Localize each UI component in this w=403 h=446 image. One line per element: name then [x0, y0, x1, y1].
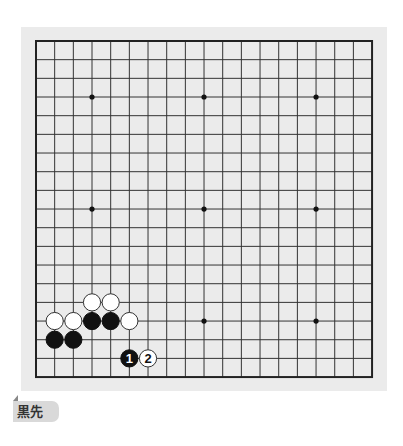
star-point-icon — [201, 206, 206, 211]
move-number-label: 1 — [126, 351, 133, 366]
star-point-icon — [313, 318, 318, 323]
black-stone[interactable] — [46, 331, 63, 348]
white-stone[interactable] — [121, 312, 138, 329]
star-point-icon — [201, 94, 206, 99]
star-point-icon — [89, 94, 94, 99]
white-stone[interactable] — [102, 294, 119, 311]
move-number-label: 2 — [144, 351, 151, 366]
black-stone[interactable] — [65, 331, 82, 348]
star-point-icon — [313, 206, 318, 211]
go-board[interactable]: 12 — [0, 0, 403, 446]
star-point-icon — [313, 94, 318, 99]
white-stone[interactable] — [83, 294, 100, 311]
black-stone[interactable] — [102, 312, 119, 329]
black-stone[interactable] — [83, 312, 100, 329]
white-stone[interactable] — [46, 312, 63, 329]
star-point-icon — [201, 318, 206, 323]
white-stone[interactable] — [65, 312, 82, 329]
star-point-icon — [89, 206, 94, 211]
to-play-label: 黒先 — [17, 402, 43, 421]
